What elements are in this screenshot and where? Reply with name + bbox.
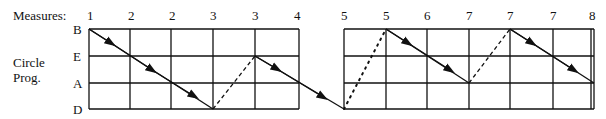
- progression-diagram: [0, 0, 606, 119]
- progression-path: [89, 29, 594, 109]
- grid-right: [344, 29, 594, 109]
